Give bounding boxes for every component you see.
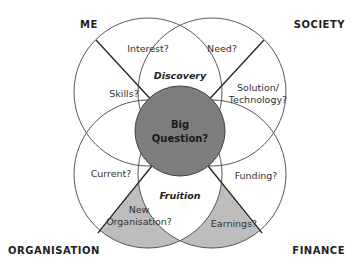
label-new-line2: Organisation?	[106, 216, 172, 227]
label-new-line1: New	[129, 204, 150, 215]
big-question-line1: Big	[171, 119, 189, 130]
label-interest: Interest?	[127, 43, 169, 54]
label-solution-line2: Technology?	[228, 94, 287, 105]
label-discovery: Discovery	[154, 70, 207, 81]
label-solution-line1: Solution/	[237, 82, 280, 93]
label-me: ME	[80, 19, 98, 30]
label-society: SOCIETY	[294, 19, 345, 30]
label-funding: Funding?	[235, 170, 278, 181]
venn-diagram: ME SOCIETY ORGANISATION FINANCE Big Ques…	[0, 0, 358, 265]
label-finance: FINANCE	[292, 245, 345, 256]
label-current: Current?	[91, 168, 132, 179]
big-question-circle	[135, 86, 225, 176]
big-question-line2: Question?	[152, 133, 209, 144]
label-earnings: Earnings?	[211, 218, 257, 229]
label-organisation: ORGANISATION	[8, 245, 100, 256]
label-fruition: Fruition	[159, 190, 200, 201]
label-need: Need?	[207, 43, 237, 54]
label-skills: Skills?	[109, 88, 138, 99]
